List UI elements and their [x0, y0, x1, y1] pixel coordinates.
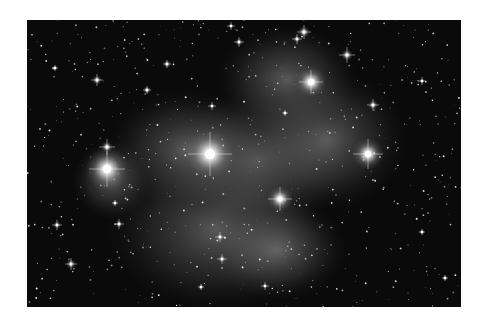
- faint-star: [169, 252, 170, 253]
- faint-star: [264, 140, 265, 141]
- faint-star: [438, 180, 439, 181]
- faint-star: [432, 293, 433, 294]
- faint-star: [137, 189, 138, 190]
- faint-star: [397, 203, 399, 205]
- faint-star: [425, 41, 426, 42]
- faint-star: [383, 66, 384, 67]
- faint-star: [40, 45, 42, 47]
- faint-star: [95, 26, 97, 28]
- faint-star: [177, 109, 178, 110]
- faint-star: [268, 29, 269, 30]
- faint-star: [365, 282, 367, 284]
- faint-star: [313, 37, 314, 38]
- faint-star: [51, 204, 53, 206]
- faint-star: [158, 265, 159, 266]
- faint-star: [112, 116, 113, 117]
- faint-star: [392, 286, 394, 288]
- faint-star: [374, 180, 376, 182]
- faint-star: [291, 189, 292, 190]
- faint-star: [179, 305, 180, 306]
- faint-star: [352, 306, 353, 307]
- faint-star: [243, 284, 244, 285]
- faint-star: [82, 165, 83, 166]
- faint-star: [155, 179, 156, 180]
- faint-star: [131, 187, 133, 189]
- faint-star: [124, 236, 125, 237]
- faint-star: [170, 167, 171, 168]
- faint-star: [158, 34, 159, 35]
- faint-star: [158, 104, 160, 106]
- faint-star: [169, 196, 171, 198]
- faint-star: [428, 30, 429, 31]
- faint-star: [406, 205, 407, 206]
- faint-star: [360, 50, 361, 51]
- faint-star: [128, 186, 129, 187]
- faint-star: [322, 265, 323, 266]
- faint-star: [240, 289, 241, 290]
- faint-star: [407, 66, 408, 67]
- faint-star: [241, 254, 243, 256]
- faint-star: [175, 101, 176, 102]
- faint-star: [129, 43, 130, 44]
- faint-star: [93, 293, 94, 294]
- faint-star: [298, 63, 300, 65]
- faint-star: [144, 298, 145, 299]
- faint-star: [174, 38, 175, 39]
- faint-star: [119, 137, 120, 138]
- faint-star: [357, 80, 358, 81]
- faint-star: [370, 171, 371, 172]
- faint-star: [143, 244, 144, 245]
- faint-star: [174, 232, 176, 234]
- bright-star: [442, 275, 448, 281]
- faint-star: [407, 292, 408, 293]
- faint-star: [406, 124, 407, 125]
- faint-star: [426, 271, 428, 273]
- faint-star: [251, 229, 253, 231]
- faint-star: [285, 250, 286, 251]
- faint-star: [328, 26, 329, 27]
- faint-star: [432, 32, 434, 34]
- faint-star: [258, 143, 259, 144]
- faint-star: [443, 155, 445, 157]
- faint-star: [350, 33, 351, 34]
- faint-star: [455, 274, 457, 276]
- faint-star: [425, 287, 426, 288]
- faint-star: [63, 99, 64, 100]
- faint-star: [151, 297, 153, 299]
- faint-star: [437, 72, 438, 73]
- faint-star: [156, 105, 157, 106]
- faint-star: [351, 109, 352, 110]
- faint-star: [456, 112, 458, 114]
- faint-star: [454, 123, 455, 124]
- faint-star: [175, 186, 176, 187]
- faint-star: [196, 266, 198, 268]
- bright-star: [163, 60, 171, 68]
- faint-star: [416, 218, 417, 219]
- faint-star: [356, 275, 357, 276]
- faint-star: [198, 20, 199, 21]
- faint-star: [86, 148, 88, 150]
- faint-star: [448, 185, 449, 186]
- faint-star: [253, 52, 254, 53]
- star-cluster-photo: [27, 20, 461, 307]
- faint-star: [401, 79, 403, 81]
- faint-star: [379, 135, 381, 137]
- faint-star: [414, 29, 415, 30]
- faint-star: [329, 72, 330, 73]
- faint-star: [397, 147, 398, 148]
- faint-star: [454, 79, 455, 80]
- faint-star: [360, 211, 362, 213]
- faint-star: [428, 24, 429, 25]
- faint-star: [200, 224, 201, 225]
- faint-star: [362, 300, 363, 301]
- faint-star: [202, 201, 204, 203]
- faint-star: [115, 260, 116, 261]
- faint-star: [31, 34, 33, 36]
- faint-star: [227, 118, 228, 119]
- faint-star: [146, 247, 147, 248]
- faint-star: [276, 29, 277, 30]
- faint-star: [311, 254, 313, 256]
- faint-star: [289, 163, 290, 164]
- faint-star: [144, 48, 145, 49]
- faint-star: [258, 269, 259, 270]
